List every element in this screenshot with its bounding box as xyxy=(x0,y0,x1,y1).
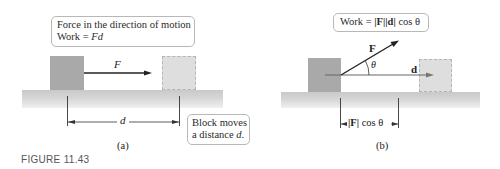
caption-b: (b) xyxy=(376,140,388,151)
force-label-b: F xyxy=(369,42,376,54)
displacement-arrowhead-icon xyxy=(426,73,434,78)
force-arrowhead-icon xyxy=(391,41,400,48)
displacement-label-d: d xyxy=(411,63,417,75)
panel-b-lines xyxy=(0,0,500,169)
angle-label-theta: θ xyxy=(371,59,376,70)
projection-label: |F| cos θ xyxy=(348,117,383,128)
angle-arc-icon xyxy=(366,61,370,75)
